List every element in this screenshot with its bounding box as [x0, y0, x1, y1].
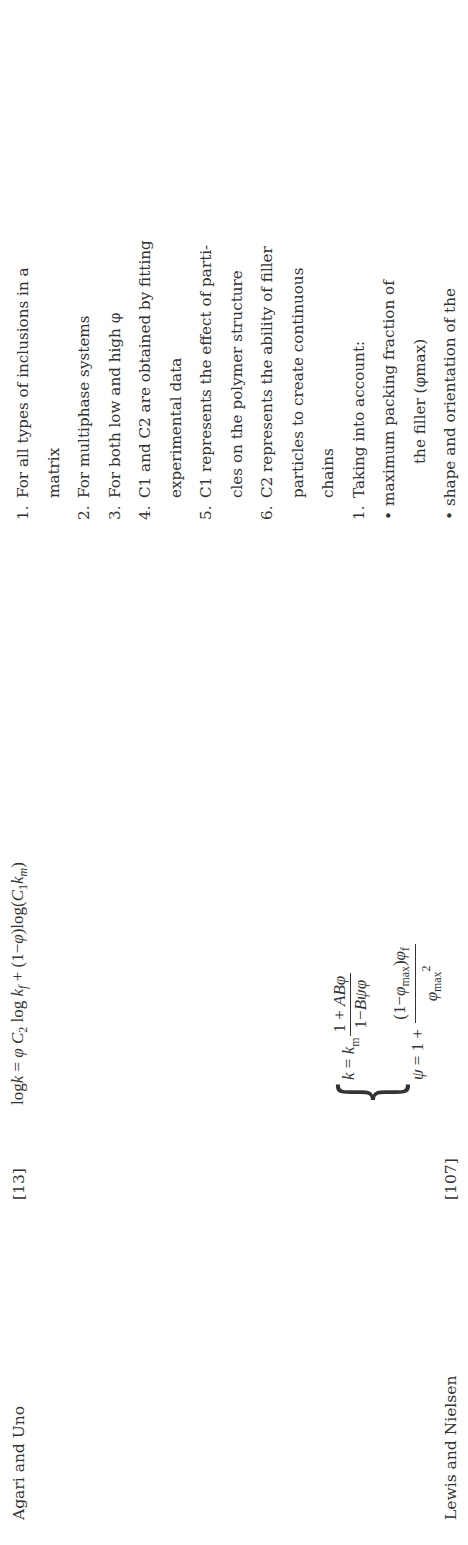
rotated-table-page: Agari and Uno [13] logk = φ C2 log kf + …: [0, 0, 468, 1545]
bullet-icon: •: [435, 506, 466, 520]
remark-item: 5.C1 represents the effect of parti-cles…: [191, 0, 252, 520]
remarks-agari-uno: 1.For all types of inclusions in amatrix…: [8, 0, 466, 520]
equation-agari-uno: logk = φ C2 log kf + (1−φ)log(C1km): [8, 862, 31, 1105]
remark-item: 2.For multiphase systems: [69, 0, 100, 520]
model-name-agari-uno: Agari and Uno: [10, 1406, 28, 1520]
reference-13: [13]: [10, 1168, 28, 1200]
equation-lewis-nielsen-k: k = km1 + ABφ1−Bψφ: [330, 971, 371, 1080]
remark-bullet: •maximum packing fraction ofthe filler (…: [374, 0, 435, 520]
model-name-lewis-nielsen: Lewis and Nielsen: [442, 1376, 460, 1520]
bullet-icon: •: [374, 506, 435, 520]
remark-bullet: •shape and orientation of the: [435, 0, 466, 520]
equation-lewis-nielsen-psi: ψ = 1 + (1−φmax)φfφmax2: [390, 942, 447, 1080]
remark-item: 1.For all types of inclusions in amatrix: [8, 0, 69, 520]
remark-item: 4.C1 and C2 are obtained by fittingexper…: [130, 0, 191, 520]
remark-item: 6.C2 represents the ability of fillerpar…: [252, 0, 344, 520]
remark-item: 1.Taking into account:: [344, 0, 375, 520]
left-brace: {: [330, 1080, 410, 1105]
remark-item: 3.For both low and high φ: [100, 0, 131, 520]
reference-107: [107]: [442, 1158, 460, 1200]
